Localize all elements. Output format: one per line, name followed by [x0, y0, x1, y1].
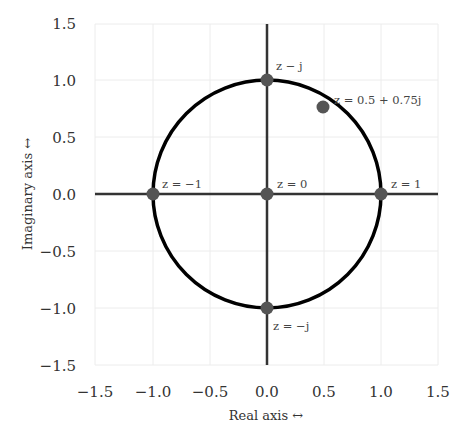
x-tick-label: 1.5: [426, 383, 450, 401]
y-tick-label: 1.0: [52, 72, 76, 90]
point-z-minus-j: [261, 302, 274, 315]
x-axis-title: Real axis ↔: [229, 408, 304, 423]
x-tick-label: −1.5: [77, 383, 113, 401]
x-tick-label: 0.0: [255, 383, 279, 401]
y-tick-label: −0.5: [40, 243, 76, 261]
annotation-z-minus-1: z = −1: [162, 177, 202, 191]
x-tick-label: −0.5: [192, 383, 228, 401]
y-tick-label: 0.0: [52, 186, 76, 204]
point-z-minus-1: [147, 188, 160, 201]
complex-plane-chart: 1.5 1.0 0.5 0.0 −0.5 −1.0 −1.5 −1.5 −1.0…: [0, 0, 464, 436]
x-tick-label: 0.5: [312, 383, 336, 401]
y-tick-labels: 1.5 1.0 0.5 0.0 −0.5 −1.0 −1.5: [40, 15, 76, 375]
annotation-z-j: z − j: [276, 59, 303, 73]
annotation-z-minus-j: z = −j: [273, 319, 309, 333]
point-z-0: [261, 188, 274, 201]
point-z-j: [261, 74, 274, 87]
annotation-z-0: z = 0: [277, 177, 307, 191]
annotation-z-0.5-0.75j: z = 0.5 + 0.75j: [334, 93, 421, 107]
point-z-1: [375, 188, 388, 201]
x-tick-label: −1.0: [135, 383, 171, 401]
y-axis-title: Imaginary axis ↔: [20, 138, 35, 251]
x-tick-labels: −1.5 −1.0 −0.5 0.0 0.5 1.0 1.5: [77, 383, 450, 401]
y-tick-label: −1.0: [40, 300, 76, 318]
y-tick-label: 1.5: [52, 15, 76, 33]
x-tick-label: 1.0: [369, 383, 393, 401]
annotation-z-1: z = 1: [391, 177, 421, 191]
point-z-0.5-0.75j: [317, 101, 330, 114]
y-tick-label: −1.5: [40, 357, 76, 375]
y-tick-label: 0.5: [52, 129, 76, 147]
